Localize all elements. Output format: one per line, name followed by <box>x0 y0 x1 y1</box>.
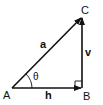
vector-triangle-diagram: A B C a h v θ <box>0 0 103 105</box>
vector-label-h: h <box>45 89 52 101</box>
right-angle-marker <box>75 81 82 88</box>
vector-label-a: a <box>40 38 47 50</box>
vector-label-v: v <box>85 46 92 58</box>
vector-a <box>12 18 81 88</box>
point-label-a: A <box>3 89 11 101</box>
point-label-c: C <box>81 4 89 16</box>
angle-arc <box>26 74 32 88</box>
angle-label-theta: θ <box>33 71 39 82</box>
point-label-b: B <box>83 90 90 102</box>
